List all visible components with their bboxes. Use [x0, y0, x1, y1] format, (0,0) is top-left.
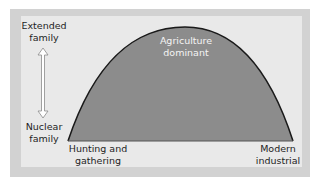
nuclear-family-label: Nuclear family	[18, 121, 70, 145]
hunting-gathering-label: Hunting and gathering	[62, 143, 134, 167]
extended-family-label: Extended family	[18, 20, 70, 44]
modern-industrial-label: Modern industrial	[244, 143, 312, 167]
double-headed-arrow-icon	[38, 48, 48, 118]
agriculture-dominant-label: Agriculture dominant	[146, 35, 226, 59]
